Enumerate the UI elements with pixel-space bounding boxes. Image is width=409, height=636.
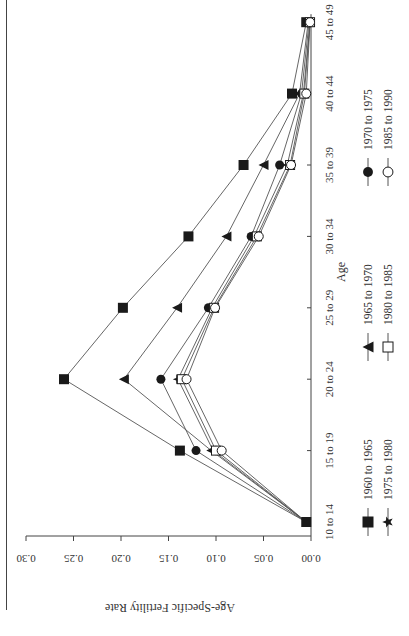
square-marker-icon (175, 446, 185, 456)
x-tick-label: 20 to 24 (323, 361, 335, 398)
y-tick-label: 0.15 (158, 553, 178, 565)
legend-label: 1960 to 1965 (362, 439, 374, 500)
square-marker-icon (363, 517, 374, 528)
y-tick-label: 0.00 (301, 553, 321, 565)
y-tick-label: 0.10 (206, 553, 226, 565)
series-markers-1960-to-1965 (59, 17, 311, 527)
triangle-marker-icon (119, 374, 129, 384)
legend-item: 1970 to 1975 (362, 89, 374, 186)
legend-label: 1975 to 1980 (382, 439, 394, 500)
square-marker-icon (301, 517, 311, 527)
square-marker-icon (183, 231, 193, 241)
legend-item: 1960 to 1965 (362, 439, 374, 536)
series-lines (64, 22, 310, 522)
series-markers-1975-to-1980 (173, 17, 315, 455)
circle-marker-icon (156, 375, 165, 384)
square-marker-icon (118, 303, 128, 313)
x-tick-label: 10 to 14 (323, 503, 335, 540)
x-tick-label: 40 to 44 (323, 75, 335, 112)
y-tick-label: 0.30 (16, 553, 36, 565)
open-circle-marker-icon (211, 303, 220, 312)
y-tick-label: 0.05 (253, 553, 273, 565)
square-marker-icon (59, 374, 69, 384)
triangle-marker-icon (221, 231, 231, 241)
open-circle-marker-icon (287, 161, 296, 170)
series-line (64, 22, 306, 522)
y-tick-label: 0.25 (63, 553, 83, 565)
legend-item: 1980 to 1985 (382, 264, 394, 361)
triangle-marker-icon (172, 303, 182, 313)
x-tick-label: 15 to 19 (323, 432, 335, 469)
legend: 1960 to 19651965 to 19701970 to 19751975… (362, 89, 394, 536)
x-tick-label: 35 to 39 (323, 146, 335, 183)
rotated-chart: 0.000.050.100.150.200.250.3010 to 1415 t… (0, 0, 409, 636)
x-tick-label: 30 to 34 (323, 218, 335, 255)
triangle-marker-icon (259, 160, 269, 170)
axes: 0.000.050.100.150.200.250.3010 to 1415 t… (16, 4, 335, 566)
open-circle-marker-icon (383, 167, 393, 177)
star-marker-icon (382, 517, 392, 528)
series-markers-1965-to-1970 (119, 17, 313, 455)
open-circle-marker-icon (217, 446, 226, 455)
legend-label: 1965 to 1970 (362, 264, 374, 325)
series-markers-1970-to-1975 (156, 18, 313, 455)
x-tick-label: 25 to 29 (323, 289, 335, 326)
legend-label: 1970 to 1975 (362, 89, 374, 150)
y-tick-label: 0.20 (111, 553, 131, 565)
legend-item: 1965 to 1970 (362, 264, 374, 361)
legend-label: 1980 to 1985 (382, 264, 394, 325)
circle-marker-icon (363, 167, 373, 177)
open-square-marker-icon (383, 342, 393, 352)
x-axis-label: Age (334, 262, 348, 282)
x-tick-label: 45 to 49 (323, 4, 335, 41)
open-circle-marker-icon (254, 232, 263, 241)
open-circle-marker-icon (302, 89, 311, 98)
legend-label: 1985 to 1990 (382, 89, 394, 150)
legend-item: 1985 to 1990 (382, 89, 394, 186)
circle-marker-icon (192, 446, 201, 455)
open-circle-marker-icon (306, 18, 315, 27)
series-markers (59, 17, 315, 527)
y-axis-label: Age-Specific Fertility Rate (105, 601, 235, 615)
fertility-line-chart: 0.000.050.100.150.200.250.3010 to 1415 t… (0, 0, 409, 636)
legend-item: 1975 to 1980 (382, 439, 394, 536)
open-circle-marker-icon (182, 375, 191, 384)
square-marker-icon (239, 160, 249, 170)
